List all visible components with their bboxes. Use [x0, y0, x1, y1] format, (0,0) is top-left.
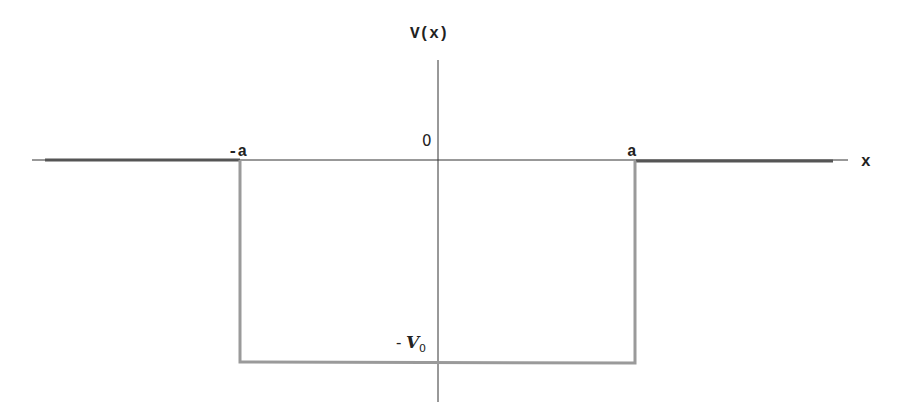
svg-text:0: 0 — [419, 342, 426, 355]
potential-well-chart: V(x) x 0 -a a - V 0 — [0, 0, 904, 417]
minus-a-label: -a — [228, 143, 248, 161]
plus-a-label: a — [627, 143, 637, 161]
x-axis-label: x — [861, 153, 871, 171]
minus-v0-label: - V 0 — [396, 332, 426, 355]
zero-label: 0 — [422, 132, 432, 150]
y-axis-label: V(x) — [410, 25, 448, 43]
svg-text:-: - — [396, 334, 401, 352]
